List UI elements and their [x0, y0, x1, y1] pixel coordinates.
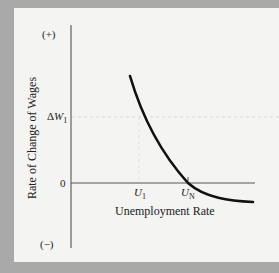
y-minus-label: (−) [40, 238, 54, 250]
u1-label: U1 [134, 186, 146, 201]
phillips-curve-chart [0, 0, 279, 273]
u1-subscript: 1 [142, 192, 146, 201]
y-axis-title: Rate of Change of Wages [25, 77, 40, 199]
delta-w-subscript: 1 [63, 116, 67, 125]
un-label: UN [181, 186, 195, 201]
x-axis-title: Unemployment Rate [115, 204, 215, 219]
un-subscript: N [189, 192, 195, 201]
delta-w1-label: ΔW1 [47, 110, 67, 125]
u1-variable: U [134, 186, 142, 198]
delta-w-variable: W [54, 110, 63, 122]
y-plus-label: (+) [42, 28, 56, 40]
un-variable: U [181, 186, 189, 198]
y-zero-label: 0 [60, 177, 66, 189]
